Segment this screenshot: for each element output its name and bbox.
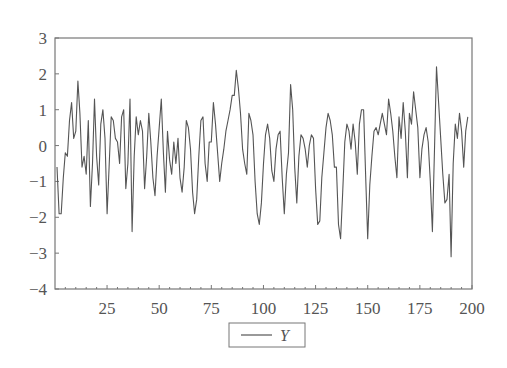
x-tick-label: 150 [355,299,381,318]
y-tick-label: 1 [39,101,48,120]
y-tick-label: 2 [39,65,48,84]
line-chart: 3210−1−2−3−4 255075100125150175200 Y [0,0,507,368]
legend: Y [229,323,305,347]
y-tick-label: −4 [29,280,48,299]
x-tick-label: 25 [99,299,116,318]
x-tick-label: 50 [151,299,168,318]
y-tick-label: 3 [39,29,48,48]
x-tick-label: 125 [303,299,329,318]
x-tick-label: 200 [459,299,485,318]
y-tick-label: −3 [29,244,47,263]
y-tick-label: 0 [39,137,48,156]
x-axis-ticks: 255075100125150175200 [65,285,484,318]
series-y-line [57,67,468,257]
y-tick-label: −1 [29,172,47,191]
x-tick-label: 75 [203,299,220,318]
x-tick-label: 100 [251,299,277,318]
x-tick-label: 175 [407,299,433,318]
y-tick-label: −2 [29,208,47,227]
